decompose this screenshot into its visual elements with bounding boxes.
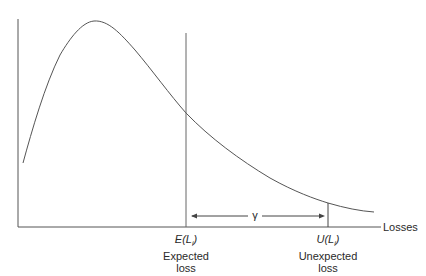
unexpected-loss-symbol: U(Li) (292, 233, 364, 250)
expected-loss-text-2: loss (156, 262, 216, 274)
unexpected-loss-text-2: loss (292, 262, 364, 274)
expected-loss-text-1: Expected (156, 250, 216, 262)
arrowhead-right-icon (319, 214, 325, 219)
unexpected-loss-text-1: Unexpected (292, 250, 364, 262)
expected-loss-symbol: E(Li) (156, 233, 216, 250)
unexpected-loss-label: U(Li) Unexpected loss (292, 233, 364, 274)
x-axis-label: Losses (383, 221, 418, 233)
loss-density-curve (23, 21, 374, 212)
arrowhead-left-icon (191, 214, 197, 219)
expected-loss-label: E(Li) Expected loss (156, 233, 216, 274)
gamma-label: γ (249, 209, 261, 221)
